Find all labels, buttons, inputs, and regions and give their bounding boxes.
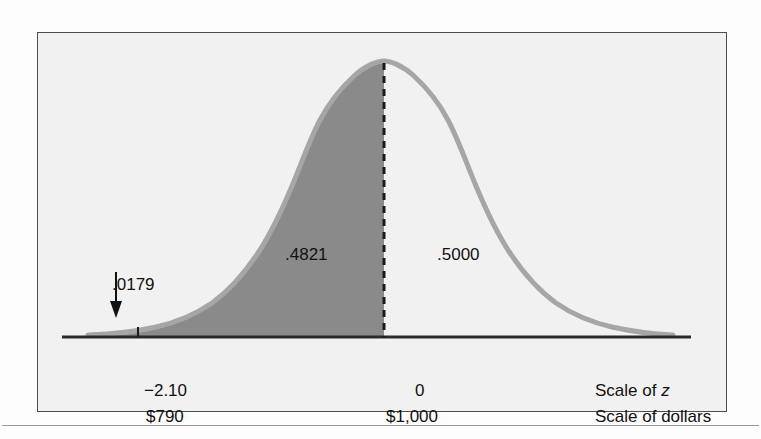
shaded-area-left-of-mean bbox=[88, 63, 384, 337]
figure-page: .4821 .5000 .0179 −2.10 0 $790 $1,000 Sc… bbox=[0, 0, 761, 439]
z-tick-label-minus-2-10: −2.10 bbox=[144, 382, 187, 399]
z-tick-label-zero: 0 bbox=[415, 382, 424, 399]
scale-of-z-prefix: Scale of bbox=[595, 381, 661, 400]
tail-area-label: .0179 bbox=[112, 276, 155, 293]
area-right-label: .5000 bbox=[437, 246, 480, 263]
area-left-label: .4821 bbox=[285, 246, 328, 263]
figure-frame: .4821 .5000 .0179 −2.10 0 $790 $1,000 Sc… bbox=[37, 32, 727, 412]
normal-distribution-plot bbox=[38, 33, 728, 413]
dollars-tick-label-790: $790 bbox=[146, 408, 184, 425]
scale-of-z-variable: z bbox=[661, 381, 670, 400]
dollars-tick-label-1000: $1,000 bbox=[386, 408, 438, 425]
scale-of-z-caption: Scale of z bbox=[595, 382, 670, 399]
figure-bottom-rule bbox=[2, 425, 759, 426]
scale-of-dollars-caption: Scale of dollars bbox=[595, 408, 711, 425]
